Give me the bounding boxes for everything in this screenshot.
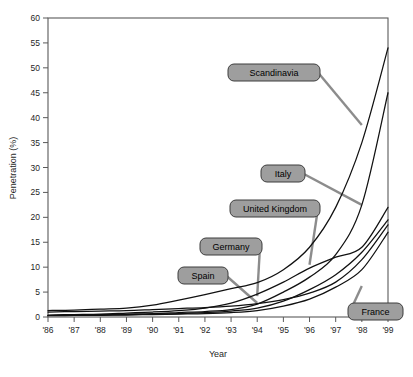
y-tick-label: 0: [35, 312, 40, 322]
x-tick-label: '97: [330, 325, 341, 335]
x-tick-label: '93: [226, 325, 237, 335]
y-tick-label: 15: [31, 237, 41, 247]
callout-italy[interactable]: Italy: [261, 165, 305, 182]
callout-spain[interactable]: Spain: [178, 267, 228, 284]
x-tick-label: '99: [382, 325, 393, 335]
callout-united-kingdom[interactable]: United Kingdom: [230, 200, 320, 217]
callout-label: Italy: [275, 169, 292, 179]
y-axis-title: Penetration (%): [8, 137, 18, 200]
x-tick-label: '96: [304, 325, 315, 335]
x-tick-label: '86: [42, 325, 53, 335]
callout-scandinavia[interactable]: Scandinavia: [228, 64, 320, 81]
x-tick-label: '87: [69, 325, 80, 335]
y-tick-label: 35: [31, 138, 41, 148]
x-axis-title: Year: [209, 349, 227, 359]
callout-label: Spain: [191, 271, 214, 281]
callout-label: France: [361, 307, 389, 317]
callout-label: United Kingdom: [243, 204, 307, 214]
x-tick-label: '98: [356, 325, 367, 335]
y-tick-label: 10: [31, 262, 41, 272]
x-tick-label: '91: [173, 325, 184, 335]
chart-canvas: 051015202530354045505560 '86'87'88'89'90…: [0, 0, 413, 377]
y-tick-label: 25: [31, 187, 41, 197]
y-tick-label: 60: [31, 13, 41, 23]
y-tick-label: 50: [31, 63, 41, 73]
y-tick-label: 55: [31, 38, 41, 48]
callout-france[interactable]: France: [348, 303, 403, 320]
x-tick-label: '94: [252, 325, 263, 335]
y-tick-label: 20: [31, 212, 41, 222]
y-tick-label: 45: [31, 88, 41, 98]
y-tick-label: 5: [35, 287, 40, 297]
callout-label: Scandinavia: [249, 68, 298, 78]
penetration-line-chart: 051015202530354045505560 '86'87'88'89'90…: [0, 0, 413, 377]
callout-label: Germany: [212, 242, 250, 252]
x-tick-label: '95: [278, 325, 289, 335]
x-tick-label: '92: [199, 325, 210, 335]
x-tick-label: '90: [147, 325, 158, 335]
y-tick-label: 30: [31, 163, 41, 173]
x-tick-label: '89: [121, 325, 132, 335]
callout-germany[interactable]: Germany: [200, 238, 262, 255]
y-tick-label: 40: [31, 113, 41, 123]
x-tick-label: '88: [95, 325, 106, 335]
